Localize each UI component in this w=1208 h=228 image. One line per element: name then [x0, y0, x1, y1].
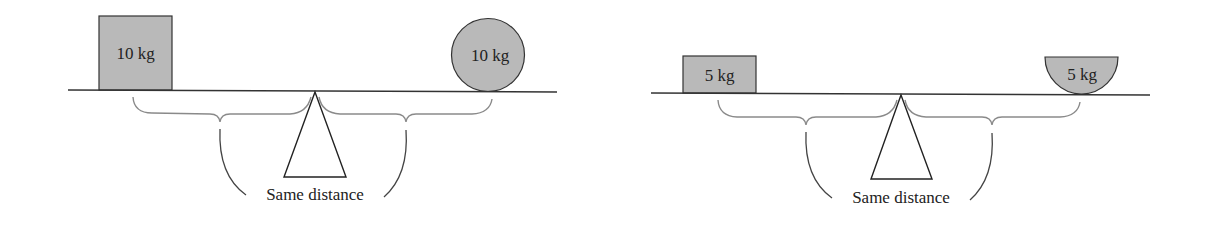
right-mass-circle: 10 kg — [452, 19, 525, 92]
right-leader-line — [384, 130, 406, 197]
left-distance-brace — [718, 100, 897, 125]
left-mass-rectangle: 5 kg — [683, 56, 756, 93]
fulcrum-triangle — [871, 95, 932, 179]
fulcrum-triangle — [284, 92, 346, 177]
same-distance-caption: Same distance — [266, 185, 364, 204]
balance-panel-10kg: 10 kg 10 kg Same distance — [68, 16, 557, 204]
left-mass-label: 5 kg — [705, 66, 735, 85]
balance-panel-5kg: 5 kg 5 kg Same distance — [651, 56, 1150, 207]
left-leader-line — [806, 132, 832, 198]
same-distance-caption: Same distance — [852, 188, 950, 207]
right-distance-brace — [905, 100, 1080, 125]
right-mass-label: 10 kg — [471, 46, 510, 65]
diagram-canvas: 10 kg 10 kg Same distance 5 kg 5 k — [0, 0, 1208, 228]
right-distance-brace — [319, 97, 492, 122]
left-distance-brace — [133, 97, 311, 122]
left-mass-square: 10 kg — [99, 16, 172, 90]
left-leader-line — [220, 129, 246, 195]
right-leader-line — [970, 133, 992, 200]
right-mass-half-disc: 5 kg — [1045, 57, 1118, 94]
left-mass-label: 10 kg — [116, 44, 155, 63]
right-mass-label: 5 kg — [1067, 65, 1097, 84]
